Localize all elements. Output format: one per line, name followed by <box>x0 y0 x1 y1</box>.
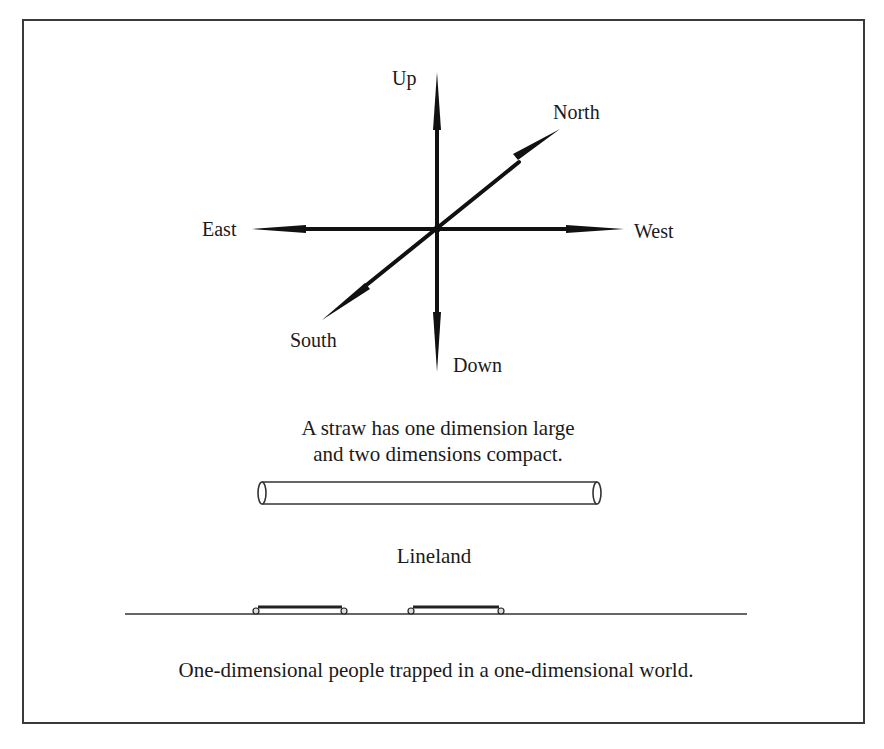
dimensions-diagram <box>0 0 884 749</box>
label-north: North <box>553 102 600 122</box>
label-up: Up <box>392 68 416 88</box>
lineland-person-2 <box>408 607 504 614</box>
label-east: East <box>202 219 236 239</box>
arrow-east-icon <box>251 225 306 233</box>
arrow-up-icon <box>433 72 441 130</box>
arrow-south-icon <box>322 283 370 320</box>
axes <box>300 125 572 318</box>
straw-illustration <box>258 482 601 504</box>
arrow-down-icon <box>433 312 441 372</box>
label-down: Down <box>453 355 502 375</box>
straw-caption-line-2: and two dimensions compact. <box>0 441 880 467</box>
straw-left-end <box>258 482 266 504</box>
north-south-axis-shaft <box>364 162 519 287</box>
arrow-west-icon <box>566 225 624 233</box>
origin-point <box>434 226 441 233</box>
lineland-person-1 <box>253 607 347 614</box>
figure-caption: One-dimensional people trapped in a one-… <box>0 657 878 683</box>
arrow-north-icon <box>513 129 560 160</box>
lineland-world <box>125 607 747 614</box>
label-south: South <box>290 330 337 350</box>
lineland-title: Lineland <box>0 543 876 569</box>
straw-caption-line-1: A straw has one dimension large <box>0 415 880 441</box>
label-west: West <box>634 221 674 241</box>
straw-right-end <box>593 482 601 504</box>
